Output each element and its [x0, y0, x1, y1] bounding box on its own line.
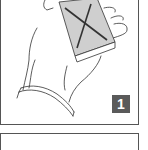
card-deck-icon	[59, 0, 115, 62]
step-number-badge: 1	[112, 95, 130, 113]
step-panel-1: 1	[0, 0, 139, 125]
step-panel-2	[0, 133, 139, 150]
